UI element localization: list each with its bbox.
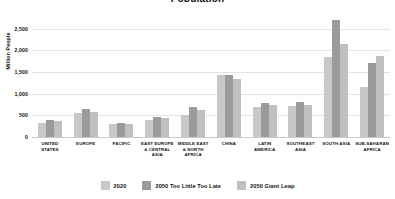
x-axis-tick-label: SOUTHEAST ASIA — [283, 141, 319, 158]
y-axis-tick-label: 0 — [2, 134, 28, 140]
x-axis-tick-label: PACIFIC — [104, 141, 140, 158]
bar[interactable] — [82, 109, 90, 137]
bar[interactable] — [46, 120, 54, 137]
plot-area: 05001,0001,5002,0002,500 — [32, 18, 390, 137]
bar[interactable] — [269, 105, 277, 137]
bar[interactable] — [296, 102, 304, 137]
bar[interactable] — [360, 87, 368, 137]
x-axis-tick-label: SUB-SAHARAN AFRICA — [354, 141, 390, 158]
bar-group — [283, 18, 319, 137]
gridline — [32, 137, 390, 138]
x-axis-labels: UNITED STATESEUROPEPACIFICEAST EUROPE & … — [32, 141, 390, 158]
bar[interactable] — [125, 124, 133, 137]
bar[interactable] — [145, 120, 153, 137]
x-axis-tick-label: MIDDLE EAST & NORTH AFRICA — [175, 141, 211, 158]
bar[interactable] — [288, 106, 296, 137]
bar[interactable] — [324, 57, 332, 137]
bar-group — [354, 18, 390, 137]
legend-swatch-icon — [237, 181, 246, 190]
bar[interactable] — [181, 115, 189, 138]
bar[interactable] — [253, 107, 261, 137]
bar-group — [318, 18, 354, 137]
x-axis-tick-label: CHINA — [211, 141, 247, 158]
y-axis-tick-label: 2,500 — [2, 26, 28, 32]
bar-group — [175, 18, 211, 137]
bar[interactable] — [161, 118, 169, 137]
y-axis-tick-label: 2,000 — [2, 47, 28, 53]
bar-groups — [32, 18, 390, 137]
legend-label: 2050 Too Little Too Late — [155, 183, 221, 189]
chart-title: Population — [0, 0, 395, 2]
bar[interactable] — [109, 124, 117, 137]
legend-item[interactable]: 2050 Too Little Too Late — [142, 181, 221, 190]
bar[interactable] — [233, 79, 241, 137]
bar[interactable] — [368, 63, 376, 137]
bar[interactable] — [38, 123, 46, 137]
bar[interactable] — [189, 107, 197, 137]
bar[interactable] — [74, 113, 82, 137]
bar[interactable] — [217, 75, 225, 137]
bar[interactable] — [117, 123, 125, 137]
x-axis-tick-label: EUROPE — [68, 141, 104, 158]
legend-item[interactable]: 2020 — [101, 181, 127, 190]
bar[interactable] — [340, 44, 348, 137]
bar[interactable] — [90, 112, 98, 137]
bar[interactable] — [332, 20, 340, 137]
bar[interactable] — [225, 75, 233, 137]
legend-item[interactable]: 2050 Giant Leap — [237, 181, 294, 190]
chart-legend: 20202050 Too Little Too Late2050 Giant L… — [0, 181, 395, 190]
bar[interactable] — [376, 56, 384, 137]
bar-group — [139, 18, 175, 137]
bar[interactable] — [54, 121, 62, 137]
y-axis-tick-label: 1,000 — [2, 91, 28, 97]
bar-group — [211, 18, 247, 137]
legend-label: 2050 Giant Leap — [250, 183, 294, 189]
x-axis-tick-label: SOUTH ASIA — [318, 141, 354, 158]
bar[interactable] — [197, 110, 205, 137]
y-axis-tick-label: 1,500 — [2, 69, 28, 75]
x-axis-tick-label: EAST EUROPE & CENTRAL ASIA — [139, 141, 175, 158]
bar-group — [68, 18, 104, 137]
legend-swatch-icon — [142, 181, 151, 190]
bar[interactable] — [304, 105, 312, 137]
y-axis-tick-label: 500 — [2, 112, 28, 118]
legend-swatch-icon — [101, 181, 110, 190]
x-axis-tick-label: UNITED STATES — [32, 141, 68, 158]
bar[interactable] — [153, 117, 161, 137]
bar-chart: Population Million People 05001,0001,500… — [0, 0, 395, 199]
legend-label: 2020 — [114, 183, 127, 189]
x-axis-tick-label: LATIN AMERICA — [247, 141, 283, 158]
bar-group — [104, 18, 140, 137]
bar-group — [32, 18, 68, 137]
bar[interactable] — [261, 103, 269, 137]
bar-group — [247, 18, 283, 137]
